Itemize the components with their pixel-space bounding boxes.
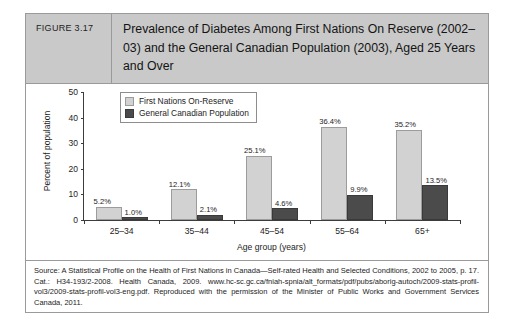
legend-label: General Canadian Population <box>139 108 249 118</box>
bar-first-nations: 12.1% <box>171 189 197 220</box>
y-tick-label: 50 <box>44 87 84 97</box>
bar-value-label: 25.1% <box>244 146 266 155</box>
bar-group: 35.2% 13.5% 65+ <box>385 92 460 220</box>
chart-area: Percent of population 50 40 30 20 10 0 5… <box>26 84 488 261</box>
bar-value-label: 1.0% <box>125 208 142 217</box>
bar-value-label: 36.4% <box>319 117 341 126</box>
legend-item: First Nations On-Reserve <box>125 95 249 107</box>
bar-first-nations: 25.1% <box>246 156 272 220</box>
bar-pair: 36.4% 9.9% <box>310 92 385 220</box>
source-note: Source: A Statistical Profile on the Hea… <box>34 266 479 308</box>
bar-value-label: 5.2% <box>94 197 111 206</box>
y-tick-label: 30 <box>44 138 84 148</box>
x-tick-label: 45–54 <box>260 226 284 236</box>
x-tick-mark <box>159 220 160 224</box>
x-tick-label: 55–64 <box>335 226 359 236</box>
x-tick-mark <box>460 220 461 224</box>
x-tick-label: 35–44 <box>185 226 209 236</box>
bar-first-nations: 35.2% <box>396 130 422 220</box>
x-tick-label: 65+ <box>415 226 430 236</box>
x-tick-mark <box>234 220 235 224</box>
figure-title: Prevalence of Diabetes Among First Natio… <box>123 20 480 76</box>
legend-swatch-icon <box>125 109 134 118</box>
bar-group: 36.4% 9.9% 55–64 <box>310 92 385 220</box>
figure-title-cell: Prevalence of Diabetes Among First Natio… <box>112 14 488 83</box>
x-axis-label: Age group (years) <box>83 242 460 252</box>
bar-value-label: 9.9% <box>350 185 367 194</box>
bar-general-canadian: 9.9% <box>347 195 373 220</box>
figure-header: FIGURE 3.17 Prevalence of Diabetes Among… <box>26 14 488 84</box>
bar-general-canadian: 13.5% <box>422 185 448 220</box>
x-tick-label: 25–34 <box>110 226 134 236</box>
y-tick-label: 10 <box>44 189 84 199</box>
legend-item: General Canadian Population <box>125 107 249 119</box>
bar-pair: 35.2% 13.5% <box>385 92 460 220</box>
bar-first-nations: 36.4% <box>321 127 347 220</box>
legend-swatch-icon <box>125 97 134 106</box>
bar-first-nations: 5.2% <box>96 207 122 220</box>
y-tick-label: 20 <box>44 164 84 174</box>
x-tick-mark <box>310 220 311 224</box>
source-note-section: Source: A Statistical Profile on the Hea… <box>26 260 488 312</box>
bar-general-canadian: 1.0% <box>122 217 148 220</box>
bar-value-label: 2.1% <box>200 205 217 214</box>
x-tick-mark <box>84 220 85 224</box>
bar-value-label: 12.1% <box>169 180 191 189</box>
figure-number-cell: FIGURE 3.17 <box>26 14 112 83</box>
chart-legend: First Nations On-Reserve General Canadia… <box>120 92 257 123</box>
figure-container: FIGURE 3.17 Prevalence of Diabetes Among… <box>25 13 489 313</box>
bar-value-label: 13.5% <box>425 176 447 185</box>
figure-number-label: FIGURE 3.17 <box>36 23 111 33</box>
legend-label: First Nations On-Reserve <box>139 96 233 106</box>
x-tick-mark <box>385 220 386 224</box>
y-tick-label: 0 <box>44 215 84 225</box>
bar-general-canadian: 2.1% <box>197 215 223 220</box>
y-tick-label: 40 <box>44 113 84 123</box>
bar-value-label: 35.2% <box>394 120 416 129</box>
bar-general-canadian: 4.6% <box>272 208 298 220</box>
bar-value-label: 4.6% <box>275 199 292 208</box>
